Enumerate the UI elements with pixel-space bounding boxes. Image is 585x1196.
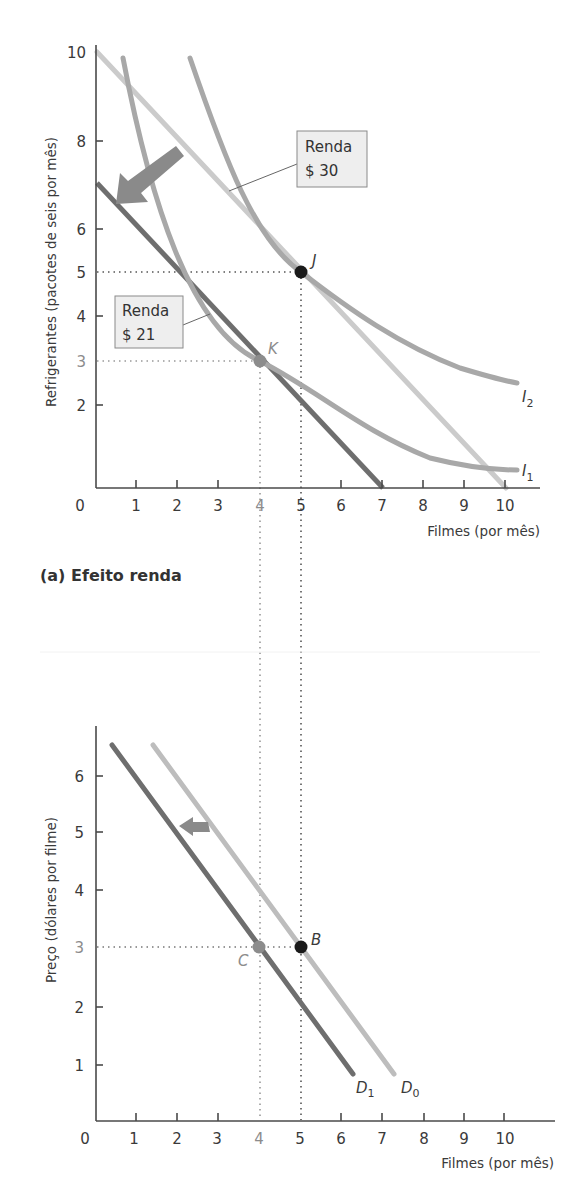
svg-text:8: 8 (419, 1130, 429, 1148)
curve-d0-label: D0 (401, 1079, 420, 1100)
bottom-x-axis-title: Filmes (por mês) (441, 1155, 554, 1171)
svg-text:5: 5 (76, 264, 86, 282)
svg-text:6: 6 (76, 221, 86, 239)
svg-text:10: 10 (495, 497, 514, 515)
svg-text:10: 10 (67, 44, 86, 62)
svg-text:2: 2 (172, 497, 182, 515)
point-c-label: C (238, 952, 249, 970)
box30-line2: $ 30 (305, 162, 338, 180)
svg-text:5: 5 (296, 497, 306, 515)
guide-lines-top (97, 272, 301, 1120)
svg-text:3: 3 (212, 1130, 222, 1148)
svg-text:9: 9 (459, 1130, 469, 1148)
svg-text:9: 9 (459, 497, 469, 515)
leader-line-21 (183, 314, 210, 325)
point-b (295, 941, 308, 954)
svg-text:6: 6 (74, 768, 84, 786)
top-y-axis-title: Refrigerantes (pacotes de seis por mês) (43, 137, 59, 407)
svg-text:3: 3 (74, 939, 84, 957)
svg-text:2: 2 (172, 1130, 182, 1148)
svg-text:0: 0 (75, 497, 85, 515)
svg-text:7: 7 (377, 497, 387, 515)
svg-text:3: 3 (213, 497, 223, 515)
svg-text:8: 8 (418, 497, 428, 515)
top-x-tick-labels: 0 1 2 3 4 5 6 7 8 9 10 (75, 497, 514, 515)
svg-text:5: 5 (74, 824, 84, 842)
bottom-y-tick-labels: 1 2 3 4 5 6 (74, 768, 84, 1075)
curve-i1-label: I1 (522, 462, 533, 484)
svg-text:2: 2 (76, 397, 86, 415)
svg-text:1: 1 (74, 1057, 84, 1075)
svg-text:4: 4 (254, 1130, 264, 1148)
point-k-label: K (268, 340, 279, 358)
svg-text:4: 4 (74, 882, 84, 900)
bottom-axes (96, 726, 555, 1121)
svg-text:4: 4 (255, 497, 265, 515)
demand-curve-d1 (112, 745, 353, 1074)
demand-curve-d0 (153, 745, 394, 1074)
label-box-renda-30: Renda $ 30 (297, 131, 367, 187)
panel-caption: (a) Efeito renda (40, 566, 182, 585)
svg-text:10: 10 (495, 1130, 514, 1148)
top-x-axis-title: Filmes (por mês) (427, 523, 540, 539)
svg-text:8: 8 (76, 133, 86, 151)
svg-text:0: 0 (80, 1130, 90, 1148)
bottom-x-tick-labels: 0 1 2 3 4 5 6 7 8 9 10 (80, 1130, 514, 1148)
svg-text:6: 6 (336, 497, 346, 515)
point-k (254, 355, 267, 368)
box21-line1: Renda (122, 302, 169, 320)
bottom-chart: B C D1 D0 1 2 3 4 5 (43, 726, 555, 1171)
svg-text:1: 1 (129, 1130, 139, 1148)
svg-text:6: 6 (336, 1130, 346, 1148)
point-j (295, 266, 308, 279)
point-j-label: J (309, 252, 316, 270)
bottom-y-axis-title: Preço (dólares por filme) (43, 817, 59, 983)
shift-arrow-icon (116, 146, 184, 204)
svg-text:3: 3 (76, 353, 86, 371)
svg-text:2: 2 (74, 999, 84, 1017)
svg-text:1: 1 (131, 497, 141, 515)
leader-line-30 (229, 164, 297, 191)
box30-line1: Renda (305, 138, 352, 156)
label-box-renda-21: Renda $ 21 (115, 296, 183, 348)
svg-text:5: 5 (295, 1130, 305, 1148)
figure-canvas: Renda $ 30 Renda $ 21 J K I2 I1 (0, 0, 585, 1196)
indifference-curve-i1 (123, 58, 517, 470)
point-b-label: B (311, 931, 321, 949)
svg-text:4: 4 (76, 308, 86, 326)
curve-i2-label: I2 (522, 388, 533, 410)
box21-line2: $ 21 (122, 326, 155, 344)
svg-text:7: 7 (377, 1130, 387, 1148)
top-y-tick-labels: 10 8 6 5 4 3 2 (67, 44, 86, 415)
point-c (253, 941, 266, 954)
curve-d1-label: D1 (356, 1079, 375, 1100)
